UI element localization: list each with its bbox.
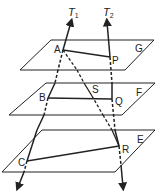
label-point-s: S — [92, 84, 99, 95]
plane-g — [20, 40, 154, 70]
label-point-p: P — [112, 55, 119, 66]
label-point-q: Q — [115, 96, 123, 107]
label-plane-f: F — [136, 87, 142, 98]
label-point-c: C — [18, 157, 25, 168]
label-t2: T2 — [103, 6, 114, 19]
label-plane-g: G — [135, 43, 143, 54]
label-plane-e: E — [137, 134, 144, 145]
label-t1: T1 — [68, 6, 79, 19]
label-point-b: B — [39, 92, 46, 103]
parallel-planes-diagram: T1 T2 G F E A P B S Q C R — [0, 0, 159, 193]
label-point-r: R — [122, 144, 129, 155]
label-point-a: A — [54, 44, 61, 55]
